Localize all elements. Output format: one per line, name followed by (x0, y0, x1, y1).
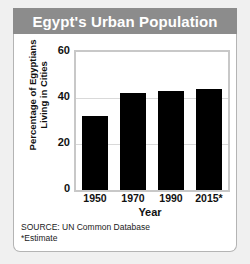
bar (196, 89, 222, 190)
chart-card: Percentage of Egyptians Living in Cities… (13, 34, 237, 252)
x-tick-label: 2015* (190, 192, 228, 204)
y-tick-label: 20 (36, 137, 70, 148)
source-note: SOURCE: UN Common Database (21, 222, 231, 233)
bar (120, 93, 146, 190)
bar (158, 91, 184, 190)
bar-series (76, 52, 228, 190)
plot-area (74, 50, 230, 192)
chart-figure: Egypt's Urban Population Percentage of E… (0, 0, 250, 264)
y-tick-label: 0 (36, 183, 70, 194)
y-axis-tick-labels: 0204060 (30, 50, 70, 188)
x-tick-label: 1990 (152, 192, 190, 204)
chart-title: Egypt's Urban Population (32, 13, 217, 30)
footnotes: SOURCE: UN Common Database *Estimate (21, 222, 231, 244)
x-tick-label: 1970 (114, 192, 152, 204)
x-axis-tick-labels: 1950197019902015* (76, 192, 228, 206)
estimate-note: *Estimate (21, 233, 231, 244)
y-tick-label: 60 (36, 45, 70, 56)
bar (82, 116, 108, 190)
y-tick-label: 40 (36, 91, 70, 102)
x-axis-label: Year (74, 206, 226, 218)
x-tick-label: 1950 (76, 192, 114, 204)
